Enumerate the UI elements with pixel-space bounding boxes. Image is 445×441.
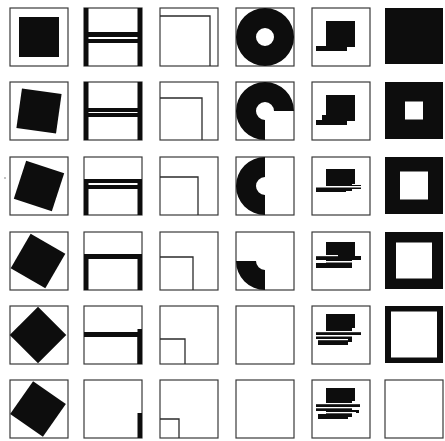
cell-rotating-square-stage-4 xyxy=(10,232,68,290)
cell-dissolving-h-figure-stage-1 xyxy=(84,8,142,66)
cell-frame xyxy=(160,232,218,290)
cell-opening-square-stage-2 xyxy=(385,82,443,139)
cell-frame xyxy=(160,380,218,438)
crossbar xyxy=(84,332,142,337)
white-hole xyxy=(396,243,432,279)
right-bar xyxy=(138,255,143,290)
bar-gap xyxy=(316,403,364,404)
cell-rotating-square-stage-2 xyxy=(10,82,68,140)
cell-opening-square-stage-4 xyxy=(385,232,443,289)
upper-crossbar xyxy=(84,108,142,112)
cell-dissolving-h-figure-stage-4 xyxy=(84,232,142,290)
left-bar xyxy=(84,179,89,215)
stepped-block-part-1 xyxy=(326,314,355,328)
stepped-block-part-3 xyxy=(322,115,342,120)
cell-shifting-stepped-block-stage-2 xyxy=(312,82,370,140)
cell-disappearing-annulus-stage-1 xyxy=(236,8,294,66)
bar-gap xyxy=(316,407,364,408)
cell-shifting-stepped-block-stage-6 xyxy=(312,380,370,438)
cell-dissolving-h-figure-stage-6 xyxy=(84,380,142,438)
cell-disappearing-annulus-stage-2 xyxy=(236,82,294,140)
cell-frame xyxy=(160,82,218,140)
cell-shifting-stepped-block-stage-1 xyxy=(312,8,370,66)
bar-gap xyxy=(316,255,338,256)
stepped-block-part-2 xyxy=(316,46,347,51)
right-bar xyxy=(138,179,143,215)
empty-square xyxy=(385,380,443,438)
cell-frame xyxy=(84,380,142,438)
lower-crossbar xyxy=(84,185,142,189)
white-hole xyxy=(405,102,423,120)
cell-disappearing-annulus-stage-4 xyxy=(236,232,294,290)
cell-shrinking-nested-square-stage-2 xyxy=(160,82,218,140)
upper-crossbar xyxy=(84,179,142,183)
stepped-block-part-6 xyxy=(340,332,361,335)
cell-shifting-stepped-block-stage-4 xyxy=(312,232,370,290)
cell-shrinking-nested-square-stage-3 xyxy=(160,157,218,215)
lower-crossbar xyxy=(84,39,142,43)
black-square xyxy=(385,8,443,64)
bar-gap xyxy=(316,331,364,332)
cell-shrinking-nested-square-stage-5 xyxy=(160,306,218,364)
upper-crossbar xyxy=(84,32,142,37)
cell-rotating-square-stage-5 xyxy=(10,306,68,364)
cell-rotating-square-stage-1 xyxy=(10,8,68,66)
cell-disappearing-annulus-stage-3 xyxy=(236,157,294,215)
crossbar xyxy=(84,254,142,259)
cell-shrinking-nested-square-stage-4 xyxy=(160,232,218,290)
cell-frame xyxy=(236,306,294,364)
cell-opening-square-stage-1 xyxy=(385,8,443,64)
bar-gap xyxy=(316,261,362,263)
cell-disappearing-annulus-stage-5 xyxy=(236,306,294,364)
stepped-block-part-5 xyxy=(318,414,348,419)
cell-frame xyxy=(160,306,218,364)
cell-opening-square-stage-6 xyxy=(385,380,443,438)
cell-rotating-square-stage-3 xyxy=(10,157,68,215)
cell-frame xyxy=(160,157,218,215)
cell-rotating-square-stage-6 xyxy=(10,380,68,438)
stepped-block-part-4 xyxy=(316,263,348,268)
cell-frame xyxy=(236,380,294,438)
cell-disappearing-annulus-stage-6 xyxy=(236,380,294,438)
left-bar xyxy=(84,255,89,290)
cell-dissolving-h-figure-stage-2 xyxy=(84,82,142,140)
cell-dissolving-h-figure-stage-5 xyxy=(84,306,142,364)
white-hole xyxy=(400,172,428,200)
cell-shrinking-nested-square-stage-1 xyxy=(160,8,218,66)
cell-shifting-stepped-block-stage-3 xyxy=(312,157,370,215)
cell-opening-square-stage-3 xyxy=(385,157,443,214)
stepped-block-part-2 xyxy=(316,120,347,125)
bar-gap xyxy=(316,412,356,413)
bar-gap xyxy=(316,335,362,337)
cell-shrinking-nested-square-stage-6 xyxy=(160,380,218,438)
lower-crossbar xyxy=(84,113,142,117)
stepped-block-part-1 xyxy=(326,21,355,47)
stepped-block-part-3 xyxy=(316,404,360,407)
black-square xyxy=(16,88,61,133)
scan-speck xyxy=(4,177,6,179)
cell-frame xyxy=(160,8,218,66)
cell-frame xyxy=(84,232,142,290)
white-hole xyxy=(391,312,437,358)
cell-opening-square-stage-5 xyxy=(385,306,443,363)
right-bar-stub xyxy=(138,413,143,438)
bar-gap xyxy=(316,186,362,188)
cell-dissolving-h-figure-stage-3 xyxy=(84,157,142,215)
black-square xyxy=(19,17,59,57)
bar-gap xyxy=(316,339,348,340)
cell-shifting-stepped-block-stage-5 xyxy=(312,306,370,364)
stepped-block-part-5 xyxy=(340,256,361,260)
stepped-block-part-5 xyxy=(318,340,348,345)
figure-grid xyxy=(0,0,445,441)
right-bar xyxy=(138,332,143,364)
